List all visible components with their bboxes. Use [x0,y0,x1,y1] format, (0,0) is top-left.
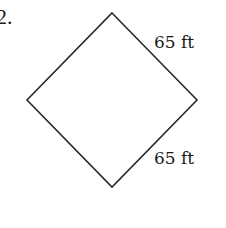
side-length-label-bottom-right: 65 ft [154,150,194,167]
side-length-label-top-right: 65 ft [154,34,194,51]
